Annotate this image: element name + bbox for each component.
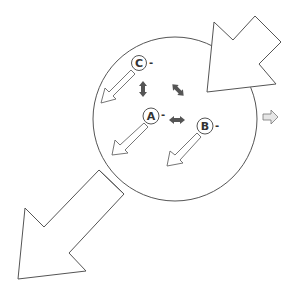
interaction-c-b-double-arrow bbox=[170, 82, 187, 99]
efflux-arrow bbox=[263, 110, 278, 124]
interaction-a-b-double-arrow bbox=[169, 116, 185, 124]
particle-c: C - bbox=[101, 56, 153, 104]
particle-a-drift-arrow bbox=[112, 123, 148, 155]
particle-b-charge: - bbox=[215, 120, 219, 131]
particle-b-label: B bbox=[201, 120, 209, 133]
inflow-arrow bbox=[207, 16, 281, 92]
interaction-c-a-double-arrow bbox=[139, 81, 147, 97]
particle-a-charge: - bbox=[161, 109, 165, 120]
particle-b: B - bbox=[167, 118, 219, 166]
particle-b-drift-arrow bbox=[167, 133, 201, 166]
diagram-canvas: C - A - B - bbox=[0, 0, 298, 294]
particle-c-charge: - bbox=[149, 57, 153, 68]
particle-c-label: C bbox=[135, 57, 143, 70]
particle-a-label: A bbox=[147, 110, 156, 123]
particle-a: A - bbox=[112, 108, 165, 155]
